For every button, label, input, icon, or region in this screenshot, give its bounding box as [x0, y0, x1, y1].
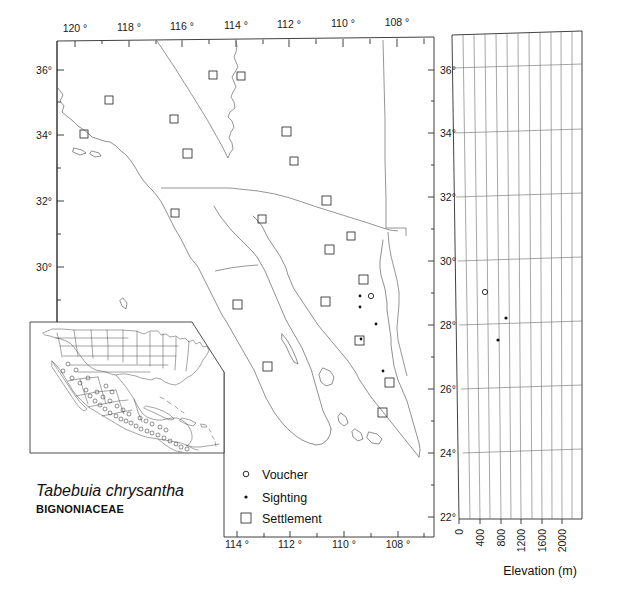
sighting-marker	[360, 338, 363, 341]
bottom-tick-label: 108 °	[386, 538, 411, 550]
elevation-tick-label: 1200	[515, 529, 527, 553]
bottom-tick-label: 112 °	[278, 538, 302, 550]
sighting-marker	[382, 370, 385, 373]
figure-canvas: 120 ° 118 ° 116 ° 114 ° 112 ° 110 ° 108 …	[0, 0, 629, 599]
left-tick-label: 32°	[36, 195, 52, 207]
right-tick-label: 24°	[440, 447, 456, 459]
right-tick-label: 30°	[440, 255, 456, 267]
sighting-marker	[359, 295, 362, 298]
left-tick-label: 34°	[36, 129, 52, 141]
elevation-tick-label: 400	[474, 529, 486, 547]
elevation-sighting-marker	[504, 316, 507, 319]
top-tick-label: 114 °	[224, 19, 248, 31]
sighting-icon	[244, 495, 247, 498]
top-tick-label: 120 °	[63, 22, 88, 34]
sighting-marker	[359, 306, 362, 309]
elevation-tick-label: 1600	[536, 529, 548, 553]
left-tick-label: 36°	[36, 64, 52, 76]
right-tick-label: 36°	[440, 64, 456, 76]
elevation-tick-label: 2000	[556, 529, 568, 553]
right-tick-label: 26°	[440, 383, 456, 395]
bottom-tick-label: 114 °	[225, 538, 249, 550]
scientific-name: Tabebuia chrysantha	[36, 482, 184, 499]
family-name: BIGNONIACEAE	[36, 503, 124, 515]
elevation-tick-label: 0	[453, 529, 465, 535]
right-tick-label: 22°	[440, 511, 456, 523]
distribution-map-figure: 120 ° 118 ° 116 ° 114 ° 112 ° 110 ° 108 …	[0, 0, 629, 599]
right-tick-label: 28°	[440, 319, 456, 331]
top-tick-label: 112 °	[277, 18, 301, 30]
top-tick-label: 108 °	[385, 16, 410, 28]
left-tick-label: 30°	[36, 261, 52, 273]
bottom-tick-label: 110 °	[332, 538, 356, 550]
inset-map	[30, 322, 224, 453]
sighting-marker	[375, 323, 378, 326]
legend-label-settlement: Settlement	[262, 512, 322, 526]
elevation-tick-label: 800	[495, 529, 507, 547]
top-tick-label: 116 °	[170, 20, 194, 32]
legend-label-sighting: Sighting	[262, 491, 307, 505]
legend-label-voucher: Voucher	[262, 468, 308, 482]
top-tick-label: 110 °	[331, 17, 355, 29]
elevation-sighting-marker	[496, 338, 499, 341]
top-tick-label: 118 °	[117, 21, 141, 33]
elevation-panel-title: Elevation (m)	[503, 564, 577, 578]
right-tick-label: 32°	[440, 191, 456, 203]
